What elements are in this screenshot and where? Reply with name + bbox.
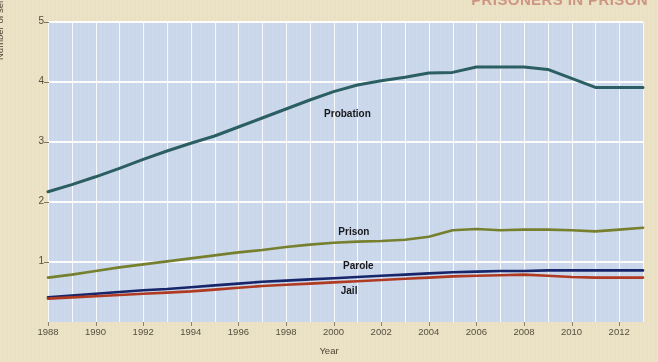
x-tick-label: 2010 [548,326,596,337]
x-tick-label: 2012 [595,326,643,337]
x-tick-label: 1988 [24,326,72,337]
y-axis-title: Number of sentenced offenders (millions) [0,0,5,60]
x-tick-mark [572,322,573,326]
x-tick-label: 2002 [357,326,405,337]
x-axis: 1988199019921994199619982000200220042006… [0,0,658,362]
series-label-jail: Jail [341,285,358,296]
x-tick-mark [48,322,49,326]
x-tick-mark [429,322,430,326]
x-tick-label: 2006 [452,326,500,337]
x-tick-label: 1996 [214,326,262,337]
x-tick-mark [619,322,620,326]
x-tick-label: 2000 [310,326,358,337]
x-tick-label: 2008 [500,326,548,337]
x-tick-mark [96,322,97,326]
chart-screenshot: Prisoners in Prison 12345 19881990199219… [0,0,658,362]
x-tick-label: 1994 [167,326,215,337]
x-tick-mark [524,322,525,326]
x-tick-mark [476,322,477,326]
x-tick-mark [191,322,192,326]
x-tick-label: 2004 [405,326,453,337]
series-label-prison: Prison [338,226,369,237]
x-tick-label: 1990 [72,326,120,337]
x-tick-mark [381,322,382,326]
x-axis-title: Year [0,345,658,356]
x-tick-label: 1992 [119,326,167,337]
x-tick-mark [143,322,144,326]
series-label-parole: Parole [343,260,374,271]
x-tick-mark [286,322,287,326]
x-tick-mark [334,322,335,326]
x-tick-label: 1998 [262,326,310,337]
series-label-probation: Probation [324,108,371,119]
x-tick-mark [238,322,239,326]
